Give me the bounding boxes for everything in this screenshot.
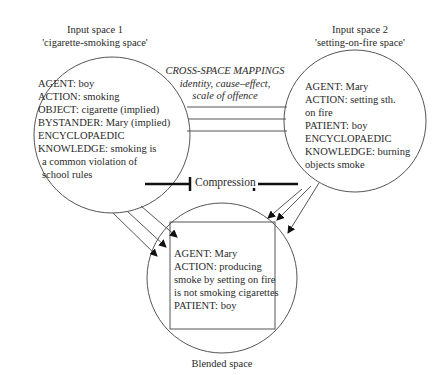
input-space-2-content: AGENT: Mary ACTION: setting sth. on fire… <box>305 80 410 171</box>
input-space-1-name: Input space 1 <box>30 23 160 36</box>
input-1-line: AGENT: boy <box>38 77 170 90</box>
blended-line: ACTION: producing <box>174 260 279 273</box>
cross-space-line: identity, cause–effect, <box>160 78 290 91</box>
input-2-line: objects smoke <box>305 158 410 171</box>
input-1-line: school rules <box>38 168 170 181</box>
input-space-2-title: Input space 2 'setting-on-fire space' <box>300 23 420 49</box>
input-2-line: AGENT: Mary <box>305 80 410 93</box>
input-1-line: ENCYCLOPAEDIC <box>38 129 170 142</box>
blended-line: PATIENT: boy <box>174 299 279 312</box>
blended-space-title: Blended space <box>172 357 272 370</box>
input-2-line: ENCYCLOPAEDIC <box>305 132 410 145</box>
input-space-1-title: Input space 1 'cigarette-smoking space' <box>30 23 160 49</box>
input-space-1-content: AGENT: boy ACTION: smoking OBJECT: cigar… <box>38 77 170 181</box>
input-space-2-name: Input space 2 <box>300 23 420 36</box>
cross-space-title: CROSS-SPACE MAPPINGS <box>160 65 290 78</box>
input-2-line: ACTION: setting sth. <box>305 93 410 106</box>
input-2-line: KNOWLEDGE: burning <box>305 145 410 158</box>
input-1-line: OBJECT: cigarette (implied) <box>38 103 170 116</box>
input-1-line: a common violation of <box>38 155 170 168</box>
input-2-line: PATIENT: boy <box>305 119 410 132</box>
blended-space-content: AGENT: Mary ACTION: producing smoke by s… <box>174 247 279 312</box>
input-space-1-subtitle: 'cigarette-smoking space' <box>30 36 160 49</box>
input-1-line: ACTION: smoking <box>38 90 170 103</box>
cross-space-line: scale of offence <box>160 90 290 103</box>
blended-line: AGENT: Mary <box>174 247 279 260</box>
input-1-line: KNOWLEDGE: smoking is <box>38 142 170 155</box>
input-space-2-subtitle: 'setting-on-fire space' <box>300 36 420 49</box>
cross-space-mappings: CROSS-SPACE MAPPINGS identity, cause–eff… <box>160 65 290 103</box>
input-2-line: on fire <box>305 106 410 119</box>
compression-label: Compression <box>193 176 258 188</box>
blended-line: smoke by setting on fire <box>174 273 279 286</box>
input-1-line: BYSTANDER: Mary (implied) <box>38 116 170 129</box>
blended-line: is not smoking cigarettes <box>174 286 279 299</box>
